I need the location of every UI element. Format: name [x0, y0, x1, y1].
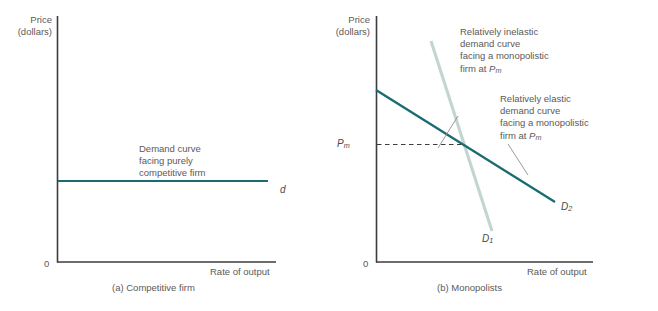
- curve-label-d2-sub: 2: [568, 204, 572, 213]
- curve-label-d2: D2: [561, 201, 572, 213]
- annotation-elastic-line-4-sub: m: [535, 133, 541, 142]
- annotation-inelastic-line-1: Relatively inelastic: [460, 26, 549, 38]
- price-label-pm-sub: m: [344, 141, 350, 150]
- annotation-line-3: competitive firm: [139, 167, 206, 179]
- annotation-elastic: Relatively elastic demand curve facing a…: [500, 93, 589, 144]
- annotation-line-1: Demand curve: [139, 143, 206, 155]
- annotation-competitive-demand: Demand curve facing purely competitive f…: [139, 143, 206, 180]
- annotation-elastic-line-4-pre: firm at: [500, 130, 529, 141]
- annotation-line-2: facing purely: [139, 155, 206, 167]
- panel-competitive-firm: Price (dollars) 0 Rate of output Demand …: [0, 0, 330, 311]
- annotation-elastic-line-2: demand curve: [500, 105, 589, 117]
- y-axis-label: Price (dollars): [2, 14, 52, 37]
- price-label-pm-var: P: [337, 138, 344, 149]
- origin-label: 0: [44, 258, 49, 269]
- leader-line-elastic: [508, 144, 528, 175]
- panel-a-caption: (a) Competitive firm: [112, 282, 195, 293]
- annotation-elastic-line-4: firm at Pm: [500, 130, 589, 144]
- annotation-elastic-line-3: facing a monopolistic: [500, 117, 589, 129]
- x-axis-label: Rate of output: [210, 266, 270, 278]
- y-axis-label-line1: Price: [326, 14, 370, 26]
- y-axis-label-line2: (dollars): [2, 26, 52, 38]
- curve-label-d1-sub: 1: [489, 236, 493, 245]
- annotation-inelastic-line-2: demand curve: [460, 38, 549, 50]
- annotation-inelastic-line-4-sub: m: [495, 66, 501, 75]
- price-label-pm: Pm: [337, 138, 350, 150]
- panel-monopolists: Price (dollars) 0 Rate of output Pm Rela…: [330, 0, 658, 311]
- curve-label-d1: D1: [482, 233, 493, 245]
- y-axis-label-line1: Price: [2, 14, 52, 26]
- annotation-inelastic-line-3: facing a monopolistic: [460, 50, 549, 62]
- annotation-inelastic: Relatively inelastic demand curve facing…: [460, 26, 549, 77]
- origin-label: 0: [363, 258, 368, 269]
- y-axis-label-line2: (dollars): [326, 26, 370, 38]
- y-axis-label: Price (dollars): [326, 14, 370, 37]
- annotation-inelastic-line-4: firm at Pm: [460, 63, 549, 77]
- annotation-inelastic-line-4-pre: firm at: [460, 63, 489, 74]
- curve-label-d: d: [280, 184, 286, 195]
- panel-b-caption: (b) Monopolists: [437, 282, 502, 293]
- annotation-elastic-line-1: Relatively elastic: [500, 93, 589, 105]
- x-axis-label: Rate of output: [527, 266, 587, 278]
